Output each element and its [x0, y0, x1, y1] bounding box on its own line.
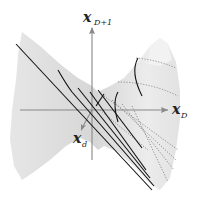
surface-right-cap [148, 38, 172, 66]
label-x-D-plus-1-base: x [82, 9, 92, 25]
label-x-D-sub: D [180, 111, 188, 120]
label-x-d-sub: d [82, 140, 87, 149]
label-x-D-base: x [171, 101, 181, 117]
hyperboloid-diagram: x D+1 x D x d [0, 0, 198, 201]
label-x-D-plus-1-sub: D+1 [93, 18, 112, 27]
label-x-d-base: x [72, 130, 82, 146]
